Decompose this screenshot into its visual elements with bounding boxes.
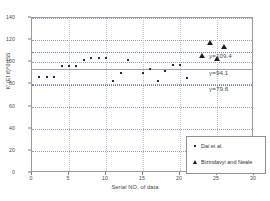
data-point [53,76,55,78]
gridline-y-60 [32,107,252,108]
data-point [90,57,92,59]
annotation-y-94-1: y=94.1 [209,69,228,76]
x-tick-mark-20 [179,172,180,175]
data-point [186,77,188,79]
data-point [149,68,151,70]
y-tick-label-60: 60 [9,103,15,109]
gridline-y-120 [32,40,252,41]
y-tick-label-140: 140 [6,14,15,20]
y-tick-label-0: 0 [12,169,15,175]
gridline-x-15 [143,18,144,171]
legend-label: Dai et al. [201,143,223,149]
y-tick-label-20: 20 [9,147,15,153]
y-axis-title: K' (Ef tf)^0.155 [5,35,11,107]
data-point [127,59,129,61]
y-tick-label-100: 100 [6,58,15,64]
x-tick-mark-5 [68,172,69,175]
data-point [199,53,205,58]
data-point [157,80,159,82]
data-point [221,44,227,49]
gridline-x-5 [69,18,70,171]
legend-label: Bizindavyi and Neale [201,159,252,165]
x-tick-label-20: 20 [176,175,182,181]
data-point [61,65,63,67]
x-tick-mark-15 [142,172,143,175]
data-point [164,70,166,72]
x-axis-title: Serial NO. of data [0,184,270,190]
x-tick-label-0: 0 [30,175,33,181]
data-point [75,65,77,67]
y-tick-label-40: 40 [9,125,15,131]
y-tick-label-80: 80 [9,80,15,86]
legend-item-bizindavyi: Bizindavyi and Neale [192,157,252,167]
legend: Dai et al. Bizindavyi and Neale [186,136,266,174]
triangle-marker-icon [192,160,198,164]
gridline-x-10 [106,18,107,171]
data-point [38,76,40,78]
data-point [142,72,144,74]
data-point [83,59,85,61]
annotation-y-109-4: y=109.4 [209,52,232,59]
data-point [46,76,48,78]
x-tick-label-10: 10 [102,175,108,181]
dot-marker-icon [192,145,198,147]
x-tick-label-5: 5 [67,175,70,181]
gridline-y-100 [32,62,252,63]
data-point [105,57,107,59]
x-tick-label-15: 15 [139,175,145,181]
data-point [172,64,174,66]
gridline-y-140 [32,18,252,19]
data-point [179,64,181,66]
legend-item-dai: Dai et al. [192,141,223,151]
x-tick-mark-10 [105,172,106,175]
gridline-y-40 [32,129,252,130]
gridline-x-20 [180,18,181,171]
x-tick-label-25: 25 [213,175,219,181]
data-point [120,72,122,74]
x-tick-mark-0 [31,172,32,175]
y-tick-label-120: 120 [6,36,15,42]
data-point [98,57,100,59]
scatter-chart-figure: K' (Ef tf)^0.155 020406080100120140 0510… [0,0,270,201]
data-point [207,40,213,45]
annotation-y-79-6: y=79.6 [209,85,228,92]
x-tick-label-30: 30 [250,175,256,181]
data-point [112,80,114,82]
data-point [68,65,70,67]
